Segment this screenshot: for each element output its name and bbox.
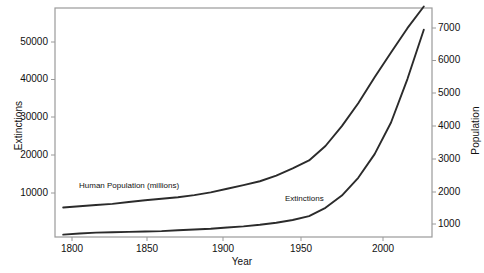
bottom-axis-ticks (72, 237, 383, 241)
y-tick-left-20000: 20000 (0, 149, 48, 160)
y-tick-right-4000: 4000 (438, 120, 484, 131)
y-tick-right-3000: 3000 (438, 153, 484, 164)
x-axis-label: Year (0, 256, 484, 267)
y-tick-right-5000: 5000 (438, 87, 484, 98)
chart-figure: Extinctions Population Year 50000 40000 … (0, 0, 484, 273)
y-tick-right-2000: 2000 (438, 186, 484, 197)
plot-background (55, 8, 432, 237)
y-tick-left-40000: 40000 (0, 73, 48, 84)
y-tick-left-30000: 30000 (0, 111, 48, 122)
population-series-annotation: Human Population (millions) (79, 181, 179, 190)
y-tick-left-50000: 50000 (0, 36, 48, 47)
chart-canvas (0, 0, 484, 273)
x-tick-1900: 1900 (198, 243, 248, 254)
x-tick-1850: 1850 (122, 243, 172, 254)
x-tick-2000: 2000 (358, 243, 408, 254)
x-tick-1800: 1800 (47, 243, 97, 254)
extinctions-series-annotation: Extinctions (285, 194, 324, 203)
y-tick-right-7000: 7000 (438, 22, 484, 33)
y-tick-left-10000: 10000 (0, 187, 48, 198)
x-tick-1950: 1950 (276, 243, 326, 254)
y-tick-right-1000: 1000 (438, 218, 484, 229)
y-tick-right-6000: 6000 (438, 54, 484, 65)
